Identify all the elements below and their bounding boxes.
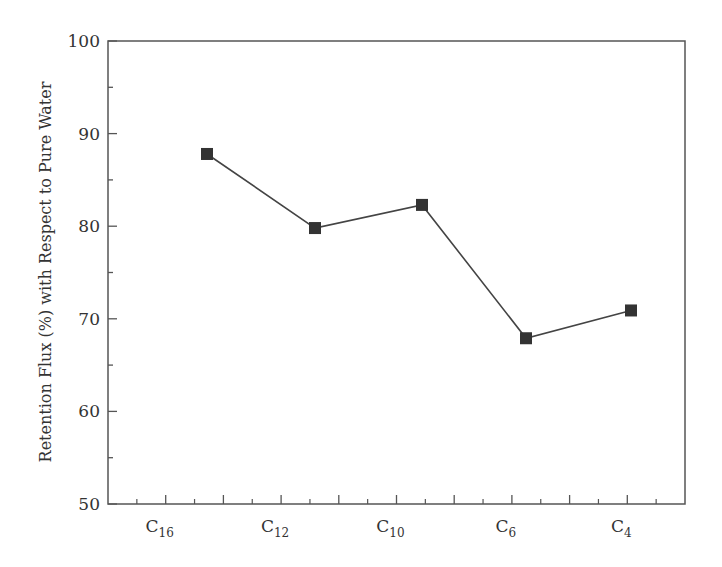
line-chart: 5060708090100 C16C12C10C6C4 Retention Fl… [0,0,722,567]
x-tick-label: C10 [376,516,404,540]
data-point-marker [520,332,532,344]
y-tick-label: 80 [78,216,100,236]
y-axis-title: Retention Flux (%) with Respect to Pure … [36,81,55,462]
data-point-marker [416,199,428,211]
y-tick-label: 60 [78,401,100,421]
series-line [207,154,631,338]
plot-frame [108,41,685,504]
x-tick-label: C4 [611,516,632,540]
x-tick-label: C6 [496,516,517,540]
data-point-marker [201,148,213,160]
y-tick-label: 50 [78,494,100,514]
y-tick-label: 90 [78,124,100,144]
x-tick-label: C16 [146,516,174,540]
data-point-marker [625,304,637,316]
x-tick-label: C12 [261,516,289,540]
y-tick-label: 100 [68,31,100,51]
x-axis: C16C12C10C6C4 [137,495,656,540]
y-tick-label: 70 [78,309,100,329]
y-axis: 5060708090100 [68,31,117,514]
data-series [201,148,637,344]
data-point-marker [309,222,321,234]
